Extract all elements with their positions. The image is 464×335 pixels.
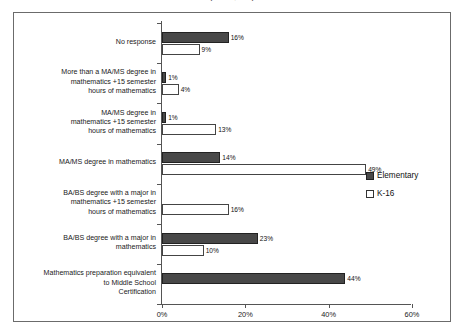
bar-value-label: 1% (168, 112, 178, 123)
category-label-line: BA/BS degree with a major in (28, 234, 156, 243)
x-axis-tick-label: 60% (405, 310, 420, 319)
category-label-line: mathematics +15 semester (28, 78, 156, 87)
category-label-line: hours of mathematics (28, 127, 156, 136)
x-axis-tick-label: 0% (157, 310, 168, 319)
bar-value-label: 16% (231, 204, 244, 215)
bar-k16 (162, 124, 216, 135)
x-axis-tick (329, 304, 330, 308)
category-label: BA/BS degree with a major inmathematics (28, 234, 156, 252)
x-axis-tick (162, 304, 163, 308)
chart-category-row: More than a MA/MS degree inmathematics +… (14, 63, 452, 103)
category-label: Mathematics preparation equivalentto Mid… (28, 269, 156, 297)
bar-k16 (162, 84, 179, 95)
bar-elementary (162, 112, 166, 123)
category-label-line: mathematics +15 semester (28, 118, 156, 127)
bar-elementary (162, 233, 258, 244)
category-axis-tick (157, 304, 161, 305)
category-label: MA/MS degree inmathematics +15 semesterh… (28, 109, 156, 137)
category-axis-tick (157, 264, 161, 265)
filled-square-icon (366, 172, 374, 180)
bar-elementary (162, 152, 220, 163)
legend-item[interactable]: Elementary (366, 171, 446, 180)
category-label-line: MA/MS degree in mathematics (28, 158, 156, 167)
category-label-line: MA/MS degree in (28, 109, 156, 118)
category-label-line: More than a MA/MS degree in (28, 68, 156, 77)
chart-category-row: Mathematics preparation equivalentto Mid… (14, 264, 452, 304)
category-axis-tick (157, 23, 161, 24)
category-label: MA/MS degree in mathematics (28, 158, 156, 167)
category-label-line: mathematics (28, 243, 156, 252)
bar-value-label: 10% (206, 245, 219, 256)
chart-frame: No response16%9%More than a MA/MS degree… (13, 12, 451, 322)
chart-category-row: No response16%9% (14, 23, 452, 63)
bar-value-label: 23% (260, 233, 273, 244)
category-axis-tick (157, 184, 161, 185)
category-label-line: hours of mathematics (28, 208, 156, 217)
bar-value-label: 14% (222, 152, 235, 163)
bar-k16 (162, 44, 200, 55)
bar-k16 (162, 164, 366, 175)
bar-k16 (162, 204, 229, 215)
chart-category-row: MA/MS degree inmathematics +15 semesterh… (14, 103, 452, 143)
category-label-line: Certification (28, 288, 156, 297)
plot-area: No response16%9%More than a MA/MS degree… (14, 13, 452, 323)
category-label-line: to Middle School (28, 279, 156, 288)
chart-category-row: BA/BS degree with a major inmathematics2… (14, 224, 452, 264)
bar-elementary (162, 72, 166, 83)
category-axis-tick (157, 144, 161, 145)
bar-elementary (162, 273, 345, 284)
category-label: No response (28, 38, 156, 47)
category-label-line: mathematics +15 semester (28, 198, 156, 207)
bar-k16 (162, 245, 204, 256)
legend-item-label: K-16 (377, 189, 394, 198)
empty-square-icon (366, 190, 374, 198)
bar-value-label: 9% (202, 44, 212, 55)
bar-value-label: 16% (231, 32, 244, 43)
category-label-line: hours of mathematics (28, 87, 156, 96)
bar-value-label: 44% (347, 273, 360, 284)
x-axis-tick-label: 20% (238, 310, 253, 319)
chart-title-cropped: (N = 2,012) (0, 0, 464, 11)
category-label: BA/BS degree with a major inmathematics … (28, 189, 156, 217)
chart-title-text: (N = 2,012) (0, 0, 464, 1)
category-axis-tick (157, 63, 161, 64)
category-axis-tick (157, 103, 161, 104)
x-axis-tick-label: 40% (321, 310, 336, 319)
bar-value-label: 1% (168, 72, 178, 83)
category-label-line: BA/BS degree with a major in (28, 189, 156, 198)
bar-elementary (162, 32, 229, 43)
category-axis-tick (157, 224, 161, 225)
chart-legend: ElementaryK-16 (366, 171, 446, 207)
legend-item[interactable]: K-16 (366, 189, 446, 198)
category-label-line: Mathematics preparation equivalent (28, 269, 156, 278)
bar-value-label: 4% (181, 84, 191, 95)
x-axis-tick (412, 304, 413, 308)
bar-value-label: 13% (218, 124, 231, 135)
x-axis-tick (245, 304, 246, 308)
category-label: More than a MA/MS degree inmathematics +… (28, 68, 156, 96)
category-label-line: No response (28, 38, 156, 47)
legend-item-label: Elementary (377, 171, 418, 180)
